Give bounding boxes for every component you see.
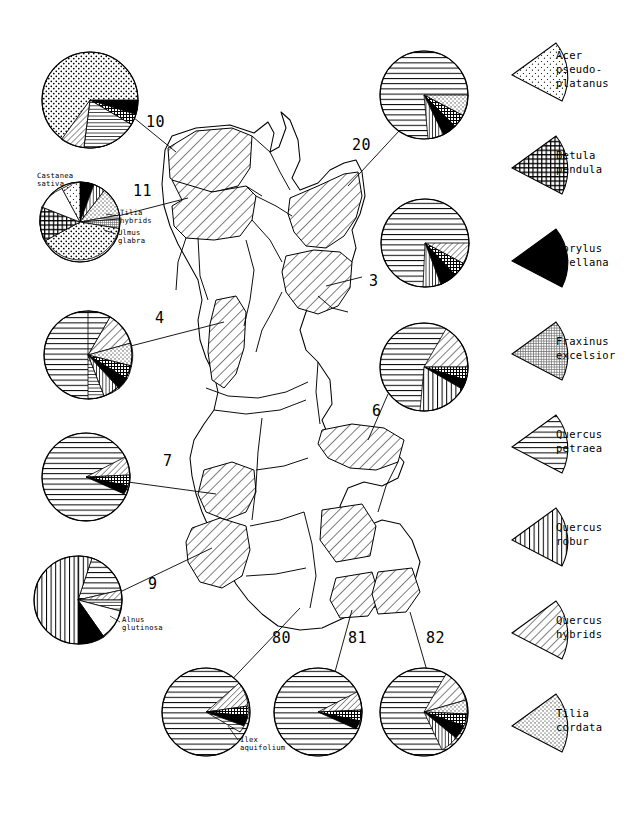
pie-chart-4	[44, 311, 133, 399]
site-label-10[interactable]: 10	[146, 114, 165, 131]
site-label-20[interactable]: 20	[352, 137, 371, 154]
site-label-11[interactable]: 11	[133, 183, 152, 200]
map-region-6	[318, 424, 404, 470]
legend-label-q-hybrids: Quercus hybrids	[556, 613, 602, 641]
legend-label-fraxinus: Fraxinus excelsior	[556, 334, 616, 362]
annotation-ulmus-glabra: Ulmus glabra	[118, 229, 145, 245]
site-label-7[interactable]: 7	[163, 453, 173, 470]
pie-chart-7	[42, 433, 130, 521]
figure-canvas: 10 11 20 3 4 6 7 9 80 81 82 Castanea sat…	[0, 0, 641, 814]
annotation-ilex-aquifolium: Ilex aquifolium	[240, 736, 285, 752]
site-label-81[interactable]: 81	[348, 630, 367, 647]
site-label-3[interactable]: 3	[369, 273, 379, 290]
legend-label-q-robur: Quercus robur	[556, 520, 602, 548]
map-region-7	[198, 462, 256, 520]
pie-chart-9	[34, 556, 122, 644]
legend-label-tilia: Tilia cordata	[556, 706, 602, 734]
site-label-9[interactable]: 9	[148, 576, 158, 593]
legend-label-q-petraea: Quercus petraea	[556, 427, 602, 455]
annotation-tilia-hybrids: Tilia hybrids	[120, 209, 152, 225]
pie-chart-3	[381, 199, 469, 287]
pie-chart-82	[380, 668, 468, 756]
site-label-6[interactable]: 6	[372, 403, 382, 420]
site-label-80[interactable]: 80	[272, 630, 291, 647]
legend-label-corylus: Corylus avellana	[556, 241, 609, 269]
pie-chart-81	[274, 668, 362, 756]
figure-svg	[0, 0, 641, 814]
pie-chart-80	[162, 668, 250, 756]
map-region-82	[320, 504, 376, 562]
legend-label-betula: Betula pendula	[556, 148, 602, 176]
map-region-80	[372, 568, 420, 614]
legend-label-acer: Acer pseudo- platanus	[556, 48, 609, 91]
pie-chart-11	[40, 182, 120, 262]
pie-chart-20	[380, 51, 468, 139]
site-label-82[interactable]: 82	[426, 630, 445, 647]
annotation-castanea-sativa: Castanea sativa	[37, 172, 73, 188]
annotation-alnus-glutinosa: Alnus glutinosa	[122, 616, 163, 632]
site-label-4[interactable]: 4	[155, 310, 165, 327]
map-region-4	[208, 296, 246, 388]
pie-chart-6	[380, 323, 468, 411]
pie-chart-10	[42, 52, 138, 148]
map-region-9	[186, 518, 250, 588]
